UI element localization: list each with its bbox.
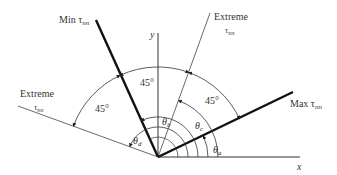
arc-45-min-to-extreme xyxy=(73,75,120,126)
angle-45-left: 45° xyxy=(95,104,109,114)
y-axis-label: y xyxy=(150,30,154,40)
theta-b-label: θb xyxy=(162,117,170,129)
min-tau-nn-label: Min τnn xyxy=(59,15,89,27)
extreme-tau-ns-left-label: Extreme xyxy=(20,89,54,99)
theta-d-label: θd xyxy=(133,136,141,148)
max-tau-nn-label: Max τnn xyxy=(290,99,322,111)
angle-45-right: 45° xyxy=(205,96,219,106)
x-axis-label: x xyxy=(297,162,301,172)
theta-a-label: θa xyxy=(213,145,221,157)
arc-theta-a xyxy=(203,136,208,157)
min-tau-nn-line xyxy=(96,20,158,157)
theta-c-label: θc xyxy=(195,121,203,133)
angle-45-top: 45° xyxy=(140,78,154,88)
extreme-tau-ns-right-label: Extreme xyxy=(214,12,248,22)
extreme-tau-ns-left-symbol: τns xyxy=(34,102,43,114)
extreme-tau-ns-right-symbol: τns xyxy=(225,25,234,37)
arc-45-extreme-to-min xyxy=(120,67,189,75)
